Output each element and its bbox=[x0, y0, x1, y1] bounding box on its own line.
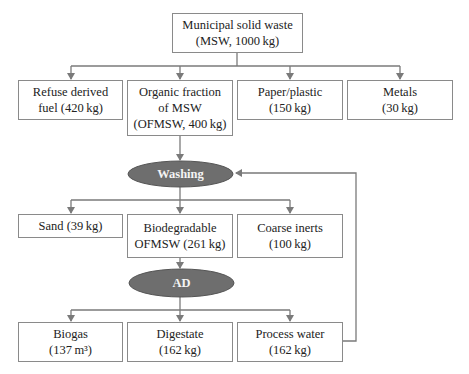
node-water-line2: (162 kg) bbox=[255, 342, 324, 358]
node-msw: Municipal solid waste(MSW, 1000 kg) bbox=[172, 13, 303, 53]
node-water-line1: Process water bbox=[255, 326, 324, 342]
node-process-water: Process water(162 kg) bbox=[237, 322, 343, 362]
node-ofmsw-line1: Organic fraction bbox=[133, 84, 226, 100]
node-msw-line2: (MSW, 1000 kg) bbox=[182, 33, 292, 49]
node-paper: Paper/plastic(150 kg) bbox=[237, 80, 343, 120]
node-rdf-line2: fuel (420 kg) bbox=[33, 100, 108, 116]
node-bio-ofmsw-line2: OFMSW (261 kg) bbox=[135, 236, 226, 252]
node-bio-ofmsw: BiodegradableOFMSW (261 kg) bbox=[127, 214, 233, 258]
node-digestate-line1: Digestate bbox=[156, 326, 203, 342]
node-sand: Sand (39 kg) bbox=[18, 214, 123, 238]
node-metals: Metals(30 kg) bbox=[347, 80, 453, 120]
node-metals-line1: Metals bbox=[382, 84, 418, 100]
flow-connectors bbox=[0, 0, 469, 374]
node-digestate: Digestate(162 kg) bbox=[127, 322, 233, 362]
node-coarse-line1: Coarse inerts bbox=[257, 220, 323, 236]
node-ofmsw: Organic fractionof MSW(OFMSW, 400 kg) bbox=[127, 80, 233, 136]
node-biogas: Biogas(137 m³) bbox=[18, 322, 123, 362]
node-bio-ofmsw-line1: Biodegradable bbox=[135, 220, 226, 236]
node-coarse: Coarse inerts(100 kg) bbox=[237, 214, 343, 258]
node-washing: Washing bbox=[127, 160, 234, 188]
node-ofmsw-line3: (OFMSW, 400 kg) bbox=[133, 116, 226, 132]
node-rdf-line1: Refuse derived bbox=[33, 84, 108, 100]
node-ofmsw-line2: of MSW bbox=[133, 100, 226, 116]
node-washing-label: Washing bbox=[157, 167, 204, 182]
node-paper-line1: Paper/plastic bbox=[258, 84, 323, 100]
node-ad-label: AD bbox=[172, 276, 190, 291]
node-ad: AD bbox=[128, 268, 235, 298]
node-paper-line2: (150 kg) bbox=[258, 100, 323, 116]
node-biogas-line2: (137 m³) bbox=[49, 342, 92, 358]
node-coarse-line2: (100 kg) bbox=[257, 236, 323, 252]
node-biogas-line1: Biogas bbox=[49, 326, 92, 342]
node-rdf: Refuse derivedfuel (420 kg) bbox=[18, 80, 123, 120]
node-sand-line1: Sand (39 kg) bbox=[39, 218, 103, 234]
node-metals-line2: (30 kg) bbox=[382, 100, 418, 116]
node-msw-line1: Municipal solid waste bbox=[182, 17, 292, 33]
node-digestate-line2: (162 kg) bbox=[156, 342, 203, 358]
